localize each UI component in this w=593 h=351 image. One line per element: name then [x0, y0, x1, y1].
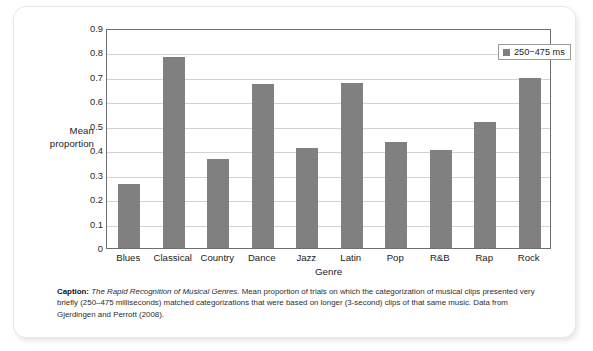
bar-blues [118, 184, 140, 248]
bar-latin [341, 83, 363, 248]
figure-card: Mean proportion 0.90.80.70.60.50.40.30.2… [13, 6, 576, 338]
plot-area [106, 29, 551, 249]
bar-r-b [430, 150, 452, 248]
y-axis-tick-label: 0.9 [69, 23, 103, 34]
y-axis-tick-label: 0.6 [69, 96, 103, 107]
x-axis-title: Genre [106, 266, 551, 277]
bar-rap [474, 122, 496, 248]
caption-label: Caption: [57, 287, 89, 296]
bar-classical [163, 57, 185, 248]
chart-legend: 250−475 ms [498, 44, 571, 60]
x-axis-tick-label: Rock [494, 252, 564, 263]
bar-chart: Mean proportion 0.90.80.70.60.50.40.30.2… [14, 7, 577, 279]
legend-swatch-icon [503, 49, 510, 56]
caption-title: The Rapid Recognition of Musical Genres. [91, 287, 239, 296]
bar-rock [519, 78, 541, 248]
y-axis-tick-label: 0.5 [69, 121, 103, 132]
bars-layer [107, 30, 550, 248]
y-axis-tick-label: 0.8 [69, 47, 103, 58]
bar-country [207, 159, 229, 248]
bar-dance [252, 84, 274, 248]
y-axis-tick-label: 0.1 [69, 219, 103, 230]
figure-caption: Caption: The Rapid Recognition of Musica… [57, 286, 537, 320]
bar-jazz [296, 148, 318, 248]
y-axis-tick-label: 0.3 [69, 170, 103, 181]
y-axis-tick-label: 0.4 [69, 145, 103, 156]
y-axis-tick-label: 0.2 [69, 194, 103, 205]
y-axis-tick-label: 0.7 [69, 72, 103, 83]
legend-entry-label: 250−475 ms [514, 47, 565, 57]
bar-pop [385, 142, 407, 248]
